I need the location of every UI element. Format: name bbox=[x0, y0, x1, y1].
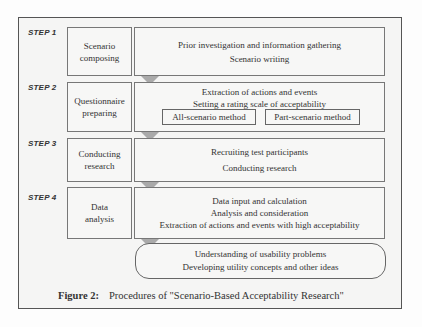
step-4-activity-3: Extraction of actions and events with hi… bbox=[159, 219, 359, 231]
outcome-line-1: Understanding of usability problems bbox=[195, 248, 327, 261]
step-1-activity-2: Scenario writing bbox=[230, 53, 290, 65]
step-2-phase-box: Questionnaire preparing bbox=[67, 82, 132, 132]
step-3-activity-1: Recruiting test participants bbox=[211, 146, 308, 158]
step-4-activity-1: Data input and calculation bbox=[212, 195, 307, 207]
step-1-phase-box: Scenario composing bbox=[67, 27, 132, 76]
step-2-label: STEP 2 bbox=[28, 83, 56, 92]
step-3-phase-line-1: Conducting bbox=[79, 148, 121, 160]
step-2-activity-1: Extraction of actions and events bbox=[202, 86, 317, 98]
step-3-activity-2: Conducting research bbox=[222, 162, 296, 174]
step-4-phase-box: Data analysis bbox=[67, 187, 132, 239]
caption-text: Procedures of "Scenario-Based Acceptabil… bbox=[109, 290, 344, 301]
caption-label: Figure 2: bbox=[58, 290, 99, 301]
step-1-phase-line-2: composing bbox=[80, 52, 120, 64]
outcome-line-2: Developing utility concepts and other id… bbox=[182, 261, 338, 274]
step-1-activities-box: Prior investigation and information gath… bbox=[134, 27, 385, 76]
step-3-phase-line-2: research bbox=[85, 160, 115, 172]
outcome-box: Understanding of usability problems Deve… bbox=[135, 243, 386, 279]
part-scenario-method-box: Part-scenario method bbox=[265, 109, 360, 125]
step-4-phase-line-1: Data bbox=[91, 201, 108, 213]
step-1-activity-1: Prior investigation and information gath… bbox=[178, 39, 341, 51]
step-1-phase-line-1: Scenario bbox=[84, 40, 116, 52]
step-4-activity-2: Analysis and consideration bbox=[211, 207, 308, 219]
step-2-phase-line-1: Questionnaire bbox=[74, 95, 124, 107]
all-scenario-method-box: All-scenario method bbox=[162, 109, 256, 125]
step-2-phase-line-2: preparing bbox=[82, 107, 116, 119]
figure-caption: Figure 2:Procedures of "Scenario-Based A… bbox=[58, 290, 344, 301]
step-4-phase-line-2: analysis bbox=[85, 213, 114, 225]
step-3-activities-box: Recruiting test participants Conducting … bbox=[134, 138, 385, 182]
step-1-label: STEP 1 bbox=[28, 28, 56, 37]
step-3-label: STEP 3 bbox=[28, 139, 56, 148]
step-3-phase-box: Conducting research bbox=[67, 138, 132, 182]
step-4-label: STEP 4 bbox=[28, 193, 56, 202]
step-4-activities-box: Data input and calculation Analysis and … bbox=[134, 187, 385, 239]
